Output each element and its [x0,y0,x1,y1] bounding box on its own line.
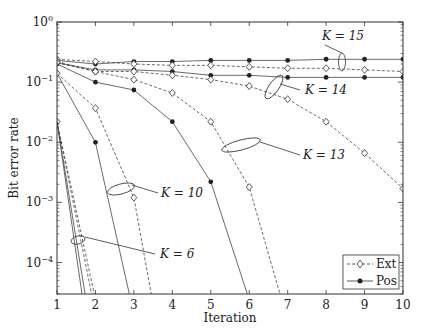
data-point-dot [93,140,98,145]
x-tick-label: 9 [361,298,369,312]
annotation-ellipse [220,135,261,155]
series-k-13-pos [55,62,248,294]
data-point-diamond [246,184,252,191]
series-line [57,62,403,189]
data-point-dot [362,57,367,62]
data-point-diamond [285,65,291,72]
y-tick-label: 10−1 [26,74,53,89]
data-point-dot [362,75,367,80]
data-point-diamond [169,89,175,96]
data-point-diamond [208,118,214,125]
x-tick-label: 1 [53,298,61,312]
series-line [57,122,82,294]
legend-ext-label: Ext [376,257,397,271]
data-point-diamond [323,118,329,125]
series-k-6-ext-b [57,122,92,294]
data-point-diamond [362,150,368,157]
y-tick-label: 100 [33,14,53,29]
data-point-diamond [169,72,175,79]
annotation-label: K = 15 [321,29,364,43]
data-point-diamond [246,63,252,70]
annotation-leader [260,142,300,155]
data-point-diamond [285,96,291,103]
data-point-diamond [169,62,175,69]
annotation-leader [132,185,158,193]
x-tick-label: 10 [395,298,410,312]
series-line [57,64,247,294]
series-line [57,73,129,294]
annotation-leader [325,45,342,53]
series-line [57,73,151,294]
data-point-dot [131,88,136,93]
annotation-ellipse [106,181,136,198]
x-tick-label: 5 [207,298,215,312]
x-tick-label: 7 [284,298,292,312]
data-point-diamond [131,194,137,201]
series-k-15-ext [54,56,406,75]
annotation-leader [280,84,300,90]
annotation-k-10: K = 10 [106,181,203,200]
data-point-dot [247,58,252,63]
data-point-diamond [208,62,214,69]
ber-chart: 1234567891010010−110−210−310−4 K = 15K =… [0,0,422,329]
legend: Ext Pos [343,255,399,289]
series-k-10-ext [54,70,151,294]
data-point-diamond [208,76,214,83]
x-tick-label: 3 [130,298,138,312]
annotation-label: K = 14 [304,83,347,97]
x-tick-label: 6 [245,298,253,312]
annotation-label: K = 6 [159,247,195,261]
data-point-dot [247,73,252,78]
series-k-6-pos [55,119,86,294]
data-point-dot [324,57,329,62]
y-axis-label: Bit error rate [7,117,21,198]
data-point-dot [285,58,290,63]
annotation-k-15: K = 15 [321,29,364,71]
x-axis-label: Iteration [203,311,256,325]
annotation-label: K = 10 [160,186,203,200]
series-line [57,63,403,78]
x-tick-label: 4 [169,298,177,312]
data-point-diamond [246,83,252,90]
legend-pos-label: Pos [376,274,397,288]
data-point-diamond [323,65,329,72]
y-tick-label: 10−2 [26,134,53,149]
series-line [57,59,403,64]
series-line [57,122,92,294]
annotation-label: K = 13 [302,148,345,162]
data-point-diamond [362,66,368,73]
series-k-6-pos-b [57,122,82,294]
x-tick-label: 2 [92,298,100,312]
series-k-14-ext [54,58,406,192]
data-point-dot [285,75,290,80]
y-tick-label: 10−3 [26,194,53,209]
x-tick-label: 8 [322,298,330,312]
data-point-diamond [92,105,98,112]
data-point-dot [324,75,329,80]
series-line [57,122,85,294]
annotation-ellipse [339,53,346,71]
annotation-k-6: K = 6 [70,234,194,261]
legend-pos-marker [358,279,363,284]
series-k-15-pos [55,57,406,67]
y-tick-label: 10−4 [26,255,53,270]
data-point-dot [208,179,213,184]
data-point-dot [170,119,175,124]
data-point-diamond [131,76,137,83]
annotation-k-13: K = 13 [220,135,345,162]
data-point-dot [93,80,98,85]
